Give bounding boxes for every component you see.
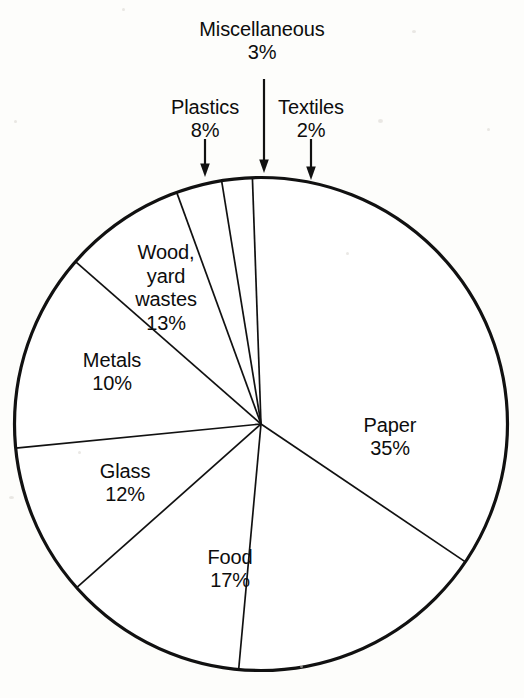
slice-label-wood-line2: yard xyxy=(135,265,197,289)
slice-label-miscellaneous: Miscellaneous 3% xyxy=(199,18,324,64)
leader-arrow-plastics xyxy=(200,139,210,177)
slice-label-glass-name: Glass xyxy=(100,460,151,483)
slice-label-wood-pct: 13% xyxy=(135,312,197,336)
leader-arrow-miscellaneous xyxy=(259,79,269,173)
slice-label-food-name: Food xyxy=(207,546,252,569)
slice-label-textiles: Textiles 2% xyxy=(278,96,344,142)
scan-speck xyxy=(346,252,349,255)
slice-label-wood-line1: Wood, xyxy=(135,241,197,265)
slice-label-paper-name: Paper xyxy=(364,414,417,437)
pie-chart-graphic xyxy=(0,0,524,698)
leader-arrow-textiles xyxy=(306,139,316,180)
slice-label-textiles-name: Textiles xyxy=(278,96,344,119)
slice-label-plastics-name: Plastics xyxy=(171,96,239,119)
slice-label-metals-pct: 10% xyxy=(83,372,141,395)
slice-label-food-pct: 17% xyxy=(207,569,252,592)
slice-label-plastics: Plastics 8% xyxy=(171,96,239,142)
slice-label-metals-name: Metals xyxy=(83,349,141,372)
scan-speck xyxy=(14,120,17,123)
scan-speck xyxy=(9,496,14,499)
slice-label-miscellaneous-name: Miscellaneous xyxy=(199,18,324,41)
slice-label-textiles-pct: 2% xyxy=(278,119,344,142)
slice-label-glass-pct: 12% xyxy=(100,483,151,506)
slice-label-paper-pct: 35% xyxy=(364,437,417,460)
slice-label-paper: Paper 35% xyxy=(364,414,417,460)
slice-label-wood-yard-wastes: Wood, yard wastes 13% xyxy=(135,241,197,335)
slice-label-plastics-pct: 8% xyxy=(171,119,239,142)
slice-label-food: Food 17% xyxy=(207,546,252,592)
scan-speck xyxy=(300,665,303,668)
slice-label-metals: Metals 10% xyxy=(83,349,141,395)
slice-label-miscellaneous-pct: 3% xyxy=(199,41,324,64)
slice-label-glass: Glass 12% xyxy=(100,460,151,506)
scan-speck xyxy=(122,8,125,11)
scan-speck xyxy=(378,119,383,123)
pie-chart-figure: Miscellaneous 3% Plastics 8% Textiles 2%… xyxy=(0,0,524,698)
scan-speck xyxy=(487,128,490,131)
scan-speck xyxy=(412,30,416,33)
scan-speck xyxy=(78,451,81,454)
slice-label-wood-line3: wastes xyxy=(135,288,197,312)
